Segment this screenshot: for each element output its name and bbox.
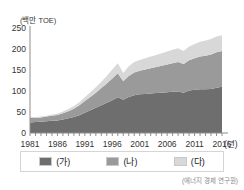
legend-swatch-na <box>106 157 119 166</box>
legend-item-ga[interactable]: (가) <box>39 155 70 168</box>
y-tick-label: 250 <box>12 23 26 33</box>
source-credit: (에너지 경제 연구원) <box>182 175 238 185</box>
legend-swatch-da <box>174 157 187 166</box>
x-tick-label: 1986 <box>48 139 67 149</box>
y-tick-label: 100 <box>12 86 26 96</box>
x-axis-unit-label: (년) <box>224 139 238 149</box>
x-tick-label: 1996 <box>103 139 122 149</box>
y-tick-label: 50 <box>17 107 27 117</box>
legend-label-ga: (가) <box>56 155 70 168</box>
x-tick-label: 2001 <box>130 139 149 149</box>
legend-swatch-ga <box>39 157 52 166</box>
legend-label-na: (나) <box>123 155 137 168</box>
y-tick-label: 0 <box>21 128 26 138</box>
y-tick-labels: 050100150200250 <box>12 23 26 138</box>
chart-legend: (가) (나) (다) <box>20 151 224 172</box>
x-tick-label: 1991 <box>75 139 94 149</box>
legend-item-da[interactable]: (다) <box>174 155 205 168</box>
x-tick-label: 2006 <box>158 139 177 149</box>
chart-figure: (백만 TOE) 050100150200250 198119861991199… <box>0 0 244 190</box>
x-tick-label: 1981 <box>21 139 40 149</box>
legend-label-da: (다) <box>191 155 205 168</box>
y-tick-label: 150 <box>12 65 26 75</box>
legend-item-na[interactable]: (나) <box>106 155 137 168</box>
x-tick-label: 2011 <box>185 139 204 149</box>
series-layer <box>30 35 222 133</box>
x-tick-labels: 19811986199119962001200620112016 <box>21 139 232 149</box>
y-tick-label: 200 <box>12 44 26 54</box>
